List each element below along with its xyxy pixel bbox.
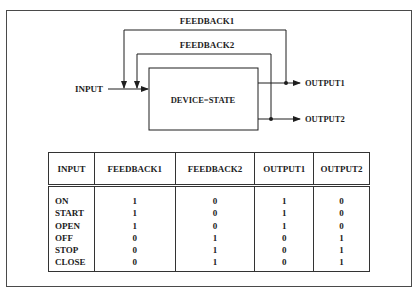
feedback1-cell: 0 [95, 232, 175, 244]
output1-column: 1 1 1 0 0 0 [255, 186, 314, 272]
feedback2-cell: 1 [176, 256, 255, 268]
header-output1: OUTPUT1 [255, 153, 314, 186]
output1-cell: 1 [255, 207, 313, 219]
header-feedback1: FEEDBACK1 [94, 153, 175, 186]
feedback1-cell: 1 [95, 195, 175, 207]
input-cell: CLOSE [55, 256, 94, 268]
output2-cell: 0 [314, 207, 369, 219]
output1-label: OUTPUT1 [305, 78, 345, 88]
table-body: ON START OPEN OFF STOP CLOSE 1 1 1 0 0 0… [49, 186, 370, 272]
output1-cell: 0 [255, 256, 313, 268]
feedback1-column: 1 1 1 0 0 0 [94, 186, 175, 272]
feedback2-cell: 1 [176, 244, 255, 256]
feedback1-cell: 1 [95, 207, 175, 219]
output2-label: OUTPUT2 [305, 114, 345, 124]
input-cell: START [55, 207, 94, 219]
output1-junction-dot [284, 81, 288, 85]
feedback2-cell: 0 [176, 195, 255, 207]
input-cell: ON [55, 195, 94, 207]
feedback1-label: FEEDBACK1 [180, 16, 235, 26]
feedback1-cell: 1 [95, 220, 175, 232]
truth-table: INPUT FEEDBACK1 FEEDBACK2 OUTPUT1 OUTPUT… [48, 152, 370, 272]
feedback2-column: 0 0 0 1 1 1 [175, 186, 255, 272]
output2-junction-dot [269, 117, 273, 121]
output1-cell: 1 [255, 195, 313, 207]
output2-cell: 1 [314, 256, 369, 268]
input-column: ON START OPEN OFF STOP CLOSE [49, 186, 95, 272]
output1-cell: 0 [255, 244, 313, 256]
feedback2-cell: 0 [176, 220, 255, 232]
input-cell: OFF [55, 232, 94, 244]
output2-cell: 1 [314, 244, 369, 256]
header-input: INPUT [49, 153, 95, 186]
device-box: DEVICE=STATE [149, 68, 258, 130]
feedback1-cell: 0 [95, 256, 175, 268]
input-cell: STOP [55, 244, 94, 256]
header-feedback2: FEEDBACK2 [175, 153, 255, 186]
header-output2: OUTPUT2 [314, 153, 370, 186]
output2-cell: 0 [314, 195, 369, 207]
output2-cell: 0 [314, 220, 369, 232]
input-cell: OPEN [55, 220, 94, 232]
feedback2-cell: 1 [176, 232, 255, 244]
device-label: DEVICE=STATE [171, 95, 236, 105]
output1-cell: 1 [255, 220, 313, 232]
block-diagram: FEEDBACK1 FEEDBACK2 INPUT DEVICE=STATE O… [0, 0, 415, 150]
output2-cell: 1 [314, 232, 369, 244]
feedback1-cell: 0 [95, 244, 175, 256]
feedback2-cell: 0 [176, 207, 255, 219]
output1-cell: 0 [255, 232, 313, 244]
table-header-row: INPUT FEEDBACK1 FEEDBACK2 OUTPUT1 OUTPUT… [49, 153, 370, 186]
feedback2-label: FEEDBACK2 [180, 40, 235, 50]
output2-column: 0 0 0 1 1 1 [314, 186, 370, 272]
input-label: INPUT [75, 84, 103, 94]
